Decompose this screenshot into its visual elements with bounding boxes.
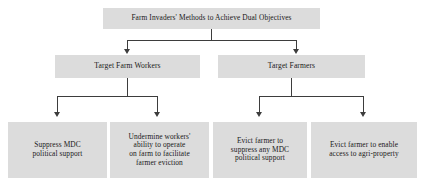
- text-line: political support: [216, 154, 304, 163]
- arrowhead-icon-root-left: [124, 49, 130, 54]
- text-line: farmer eviction: [113, 159, 206, 168]
- connector-workers-drop-left: [57, 96, 58, 113]
- connector-workers-stem: [127, 78, 128, 97]
- node-evict-farmer-agri-property: Evict farmer to enableaccess to agri-pro…: [311, 122, 417, 178]
- arrowhead-icon-workers-right: [154, 112, 160, 117]
- node-target-farmers-label: Target Farmers: [221, 62, 362, 71]
- node-root-label-group: Farm Invaders' Methods to Achieve Dual O…: [103, 14, 320, 23]
- connector-farmers-drop-left: [259, 96, 260, 113]
- node-leaf-4-label-group: Evict farmer to enableaccess to agri-pro…: [311, 141, 417, 158]
- text-line: access to agri-property: [314, 150, 414, 159]
- text-line: political support: [11, 150, 104, 159]
- node-target-farmers-label-group: Target Farmers: [218, 62, 365, 71]
- node-undermine-workers-ability: Undermine workers'ability to operateon f…: [110, 122, 209, 178]
- flowchart-diagram: Farm Invaders' Methods to Achieve Dual O…: [0, 0, 423, 178]
- node-leaf-3-label-group: Evict farmer tosuppress any MDCpolitical…: [213, 137, 307, 163]
- node-target-farmers: Target Farmers: [218, 55, 365, 78]
- arrowhead-icon-farmers-right: [360, 112, 366, 117]
- node-leaf-2-label-group: Undermine workers'ability to operateon f…: [110, 133, 209, 168]
- arrowhead-icon-workers-left: [54, 112, 60, 117]
- connector-workers-bar: [57, 96, 157, 97]
- node-root-label: Farm Invaders' Methods to Achieve Dual O…: [106, 14, 317, 23]
- node-root-objectives: Farm Invaders' Methods to Achieve Dual O…: [103, 8, 320, 29]
- node-evict-farmer-suppress-mdc: Evict farmer tosuppress any MDCpolitical…: [213, 122, 307, 178]
- connector-farmers-bar: [259, 96, 363, 97]
- node-leaf-1-label-group: Suppress MDCpolitical support: [8, 141, 107, 158]
- arrowhead-icon-farmers-left: [256, 112, 262, 117]
- node-target-farm-workers-label: Target Farm Workers: [58, 62, 197, 71]
- node-target-farm-workers: Target Farm Workers: [55, 55, 200, 78]
- arrowhead-icon-root-right: [293, 49, 299, 54]
- node-target-farm-workers-label-group: Target Farm Workers: [55, 62, 200, 71]
- connector-farmers-stem: [291, 78, 292, 97]
- connector-root-bar: [127, 40, 296, 41]
- connector-workers-drop-right: [157, 96, 158, 113]
- node-suppress-mdc-political-support: Suppress MDCpolitical support: [8, 122, 107, 178]
- connector-farmers-drop-right: [363, 96, 364, 113]
